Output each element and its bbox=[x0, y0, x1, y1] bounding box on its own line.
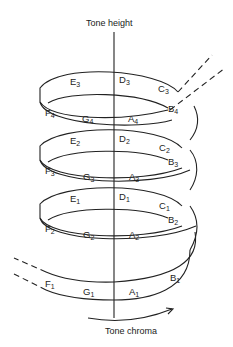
helix-band-bottom-edge-1 bbox=[46, 250, 190, 300]
helix-band-inner-edge-3 bbox=[48, 151, 168, 162]
helix-continuation-upper bbox=[178, 55, 212, 92]
note-label-g4: G4 bbox=[82, 114, 93, 125]
note-label-c3: C3 bbox=[158, 84, 169, 95]
note-label-b2: B2 bbox=[168, 215, 178, 226]
note-label-e1: E1 bbox=[70, 194, 80, 205]
note-label-a4: A4 bbox=[128, 114, 138, 125]
note-label-e2: E2 bbox=[70, 136, 80, 147]
helix-band-inner-edge-4 bbox=[48, 94, 168, 108]
note-label-f2: F2 bbox=[45, 224, 55, 235]
note-label-e3: E3 bbox=[70, 77, 80, 88]
note-label-b3: B3 bbox=[168, 157, 178, 168]
helix-continuation-lower-2 bbox=[14, 274, 46, 290]
pitch-helix-diagram: Tone height Tone chroma E3 D3 C3 B4 F4 G… bbox=[0, 0, 233, 347]
tone-height-label: Tone height bbox=[86, 18, 133, 28]
note-label-c1: C1 bbox=[159, 201, 170, 212]
note-label-d1: D1 bbox=[119, 192, 130, 203]
helix-continuation-upper-2 bbox=[170, 68, 225, 110]
note-label-f4: F4 bbox=[45, 108, 55, 119]
note-label-b4: B4 bbox=[168, 104, 178, 115]
note-label-g1: G1 bbox=[83, 287, 94, 298]
helix-band-inner-edge-2 bbox=[48, 209, 168, 220]
note-label-d2: D2 bbox=[119, 134, 130, 145]
tone-chroma-label: Tone chroma bbox=[105, 326, 157, 336]
note-label-f3: F3 bbox=[45, 166, 55, 177]
note-label-a3: A3 bbox=[129, 172, 139, 183]
note-label-b1: B1 bbox=[170, 273, 180, 284]
note-label-f1: F1 bbox=[45, 279, 55, 290]
note-label-a2: A2 bbox=[129, 230, 139, 241]
note-label-d3: D3 bbox=[119, 75, 130, 86]
note-label-c2: C2 bbox=[159, 143, 170, 154]
note-label-g3: G3 bbox=[83, 172, 94, 183]
tone-chroma-arrow bbox=[88, 309, 172, 320]
helix-back-curve-4 bbox=[190, 106, 197, 140]
note-label-a1: A1 bbox=[129, 287, 139, 298]
helix-continuation-lower bbox=[14, 258, 46, 272]
helix-drawing bbox=[0, 0, 233, 347]
note-label-g2: G2 bbox=[83, 230, 94, 241]
helix-back-curve-3 bbox=[190, 150, 197, 190]
